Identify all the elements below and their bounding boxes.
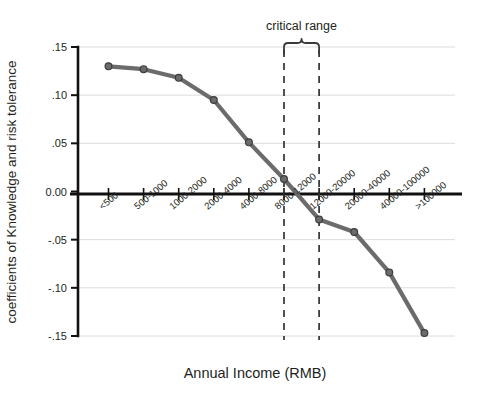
data-point-marker [316,216,323,223]
y-axis-tick-label: -.15 [48,330,67,342]
data-point-marker [105,63,112,70]
y-axis-tick-label: 0.00 [46,186,67,198]
data-point-marker [386,269,393,276]
y-axis-title: coefficients of Knowledge and risk toler… [4,60,19,323]
data-point-marker [246,139,253,146]
y-axis-tick-label: -.10 [48,282,67,294]
data-point-marker [281,176,288,183]
data-point-marker [175,74,182,81]
data-point-marker [351,229,358,236]
critical-range-label: critical range [266,19,337,33]
y-axis-tick-label: .10 [52,89,67,101]
y-axis-tick-label: .05 [52,137,67,149]
y-axis-tick-label: .15 [52,41,67,53]
chart-background [0,0,478,400]
y-axis-tick-label: -.05 [48,234,67,246]
line-chart: .15.10.050.00-.05-.10-.15 critical range… [0,0,478,400]
data-point-marker [140,66,147,73]
data-point-marker [210,97,217,104]
x-axis-title: Annual Income (RMB) [184,365,327,381]
chart-container: .15.10.050.00-.05-.10-.15 critical range… [0,0,478,400]
data-point-marker [421,330,428,337]
